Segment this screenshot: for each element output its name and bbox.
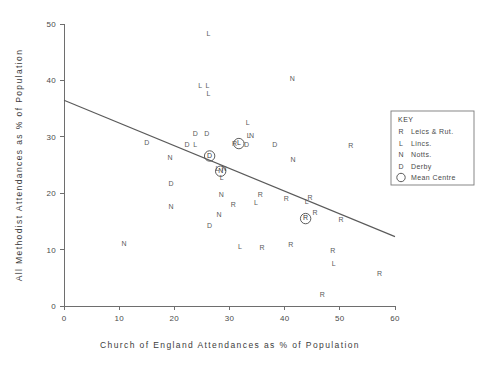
data-point-L: L bbox=[193, 141, 197, 148]
data-point-N: N bbox=[216, 211, 221, 218]
data-point-L: L bbox=[220, 174, 224, 181]
data-point-R: R bbox=[284, 195, 289, 202]
data-point-L: L bbox=[246, 119, 250, 126]
data-point-N: N bbox=[219, 191, 224, 198]
data-point-R: R bbox=[330, 247, 335, 254]
data-point-R: R bbox=[377, 270, 382, 277]
x-tick-label: 30 bbox=[225, 314, 235, 323]
data-point-D: D bbox=[244, 141, 249, 148]
data-point-R: R bbox=[288, 241, 293, 248]
key-symbol-D: D bbox=[398, 163, 403, 170]
key-label: Mean Centre bbox=[411, 174, 456, 181]
x-tick-label: 50 bbox=[335, 314, 345, 323]
data-point-R: R bbox=[258, 191, 263, 198]
data-point-D: D bbox=[207, 222, 212, 229]
data-point-D: D bbox=[272, 141, 277, 148]
data-point-R: R bbox=[348, 142, 353, 149]
data-point-D: D bbox=[204, 130, 209, 137]
mean-centre-label-D: D bbox=[207, 152, 212, 159]
data-point-L: L bbox=[254, 199, 258, 206]
key-label: Leics & Rut. bbox=[411, 128, 454, 135]
x-tick-label: 0 bbox=[62, 314, 67, 323]
chart-canvas: 01020304050 0102030405060 All Methodist … bbox=[0, 0, 482, 365]
key-symbol-R: R bbox=[398, 128, 403, 135]
scatter-chart: 01020304050 0102030405060 All Methodist … bbox=[0, 0, 482, 365]
y-tick-label: 40 bbox=[47, 76, 57, 85]
data-point-N: N bbox=[290, 75, 295, 82]
data-point-R: R bbox=[320, 291, 325, 298]
key-label: Lincs. bbox=[411, 140, 432, 147]
data-point-D: D bbox=[184, 141, 189, 148]
data-point-D: D bbox=[144, 139, 149, 146]
data-point-R: R bbox=[338, 216, 343, 223]
key-symbol-N: N bbox=[398, 151, 403, 158]
y-tick-label: 0 bbox=[51, 302, 56, 311]
x-axis-title: Church of England Attendances as % of Po… bbox=[100, 340, 360, 350]
x-tick-label: 10 bbox=[114, 314, 124, 323]
data-point-N: N bbox=[290, 156, 295, 163]
mean-centre-label-L: L bbox=[237, 139, 241, 146]
data-point-N: N bbox=[122, 240, 127, 247]
key-legend: KEYRLeics & Rut.LLincs.NNotts.DDerbyMean… bbox=[391, 111, 474, 185]
data-point-R: R bbox=[260, 244, 265, 251]
data-point-N: N bbox=[167, 154, 172, 161]
data-point-D: D bbox=[168, 180, 173, 187]
mean-centre-label-N: N bbox=[218, 167, 223, 174]
key-label: Notts. bbox=[411, 151, 432, 158]
y-tick-label: 30 bbox=[47, 133, 57, 142]
x-tick-label: 60 bbox=[390, 314, 400, 323]
data-point-L: L bbox=[332, 260, 336, 267]
data-point-N: N bbox=[168, 203, 173, 210]
y-tick-label: 10 bbox=[47, 246, 57, 255]
key-title: KEY bbox=[398, 116, 414, 123]
data-point-L: L bbox=[198, 82, 202, 89]
mean-centre-label-R: R bbox=[303, 214, 308, 221]
data-point-L: L bbox=[207, 90, 211, 97]
data-point-D: D bbox=[193, 130, 198, 137]
y-tick-label: 20 bbox=[47, 189, 57, 198]
data-point-R: R bbox=[312, 209, 317, 216]
x-tick-label: 20 bbox=[170, 314, 180, 323]
y-axis-title: All Methodist Attendances as % of Popula… bbox=[14, 49, 24, 282]
data-point-N: N bbox=[249, 132, 254, 139]
data-point-L: L bbox=[205, 82, 209, 89]
data-point-L: L bbox=[207, 30, 211, 37]
data-point-L: L bbox=[238, 243, 242, 250]
x-tick-label: 40 bbox=[280, 314, 290, 323]
data-point-R: R bbox=[231, 201, 236, 208]
y-tick-label: 50 bbox=[47, 20, 57, 29]
key-label: Derby bbox=[411, 163, 432, 171]
data-point-L: L bbox=[305, 198, 309, 205]
key-symbol-L: L bbox=[399, 140, 403, 147]
